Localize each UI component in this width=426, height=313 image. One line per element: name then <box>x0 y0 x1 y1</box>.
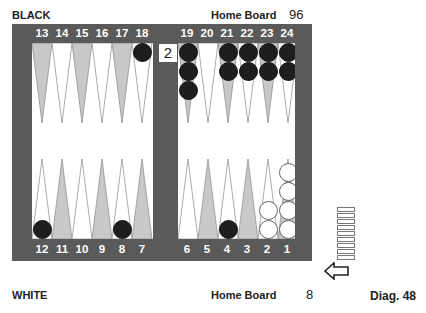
black-checker[interactable] <box>219 220 238 239</box>
black-checker[interactable] <box>239 62 258 81</box>
on-roll-arrow-icon <box>324 262 350 280</box>
point-number-1: 1 <box>277 243 297 255</box>
point-number-4: 4 <box>217 243 237 255</box>
bottom-player-label: WHITE <box>12 289 47 301</box>
black-checker[interactable] <box>33 220 52 239</box>
point-16[interactable] <box>92 43 112 123</box>
backgammon-board: 2 13141516171819202122232412111098765432… <box>12 24 312 261</box>
point-15[interactable] <box>72 43 92 123</box>
point-number-17: 17 <box>112 27 132 39</box>
black-checker[interactable] <box>259 62 278 81</box>
black-checker[interactable] <box>239 43 258 62</box>
point-number-3: 3 <box>237 243 257 255</box>
borne-off-white-checker <box>337 213 355 218</box>
white-checker[interactable] <box>259 220 278 239</box>
point-5[interactable] <box>198 159 218 239</box>
black-checker[interactable] <box>219 62 238 81</box>
borne-off-tray <box>337 207 355 261</box>
point-number-21: 21 <box>217 27 237 39</box>
borne-off-white-checker <box>337 237 355 242</box>
black-checker[interactable] <box>179 62 198 81</box>
doubling-cube[interactable]: 2 <box>159 44 177 62</box>
point-number-14: 14 <box>52 27 72 39</box>
point-number-9: 9 <box>92 243 112 255</box>
black-checker[interactable] <box>179 43 198 62</box>
point-number-12: 12 <box>32 243 52 255</box>
white-checker[interactable] <box>279 163 296 182</box>
white-checker[interactable] <box>279 220 296 239</box>
black-checker[interactable] <box>219 43 238 62</box>
point-17[interactable] <box>112 43 132 123</box>
point-6[interactable] <box>178 159 198 239</box>
point-number-13: 13 <box>32 27 52 39</box>
diagram-label: Diag. 48 <box>370 289 416 303</box>
point-number-19: 19 <box>177 27 197 39</box>
borne-off-white-checker <box>337 231 355 236</box>
point-number-2: 2 <box>257 243 277 255</box>
point-14[interactable] <box>52 43 72 123</box>
point-number-10: 10 <box>72 243 92 255</box>
borne-off-white-checker <box>337 207 355 212</box>
point-number-11: 11 <box>52 243 72 255</box>
black-checker[interactable] <box>279 62 296 81</box>
borne-off-white-checker <box>337 243 355 248</box>
point-number-18: 18 <box>132 27 152 39</box>
white-checker[interactable] <box>259 201 278 220</box>
point-number-8: 8 <box>112 243 132 255</box>
point-20[interactable] <box>198 43 218 123</box>
point-number-20: 20 <box>197 27 217 39</box>
black-checker[interactable] <box>133 43 152 62</box>
point-9[interactable] <box>92 159 112 239</box>
point-number-16: 16 <box>92 27 112 39</box>
top-player-label: BLACK <box>12 9 51 21</box>
point-3[interactable] <box>238 159 258 239</box>
point-number-5: 5 <box>197 243 217 255</box>
point-10[interactable] <box>72 159 92 239</box>
point-11[interactable] <box>52 159 72 239</box>
black-checker[interactable] <box>179 81 198 100</box>
black-checker[interactable] <box>113 220 132 239</box>
black-checker[interactable] <box>279 43 296 62</box>
point-number-7: 7 <box>132 243 152 255</box>
bottom-pip-count: 8 <box>306 287 313 302</box>
home-board <box>178 43 295 239</box>
borne-off-white-checker <box>337 219 355 224</box>
point-number-24: 24 <box>277 27 297 39</box>
borne-off-white-checker <box>337 225 355 230</box>
top-home-board-label: Home Board <box>211 9 276 21</box>
bottom-home-board-label: Home Board <box>211 289 276 301</box>
point-number-15: 15 <box>72 27 92 39</box>
point-13[interactable] <box>32 43 52 123</box>
black-checker[interactable] <box>259 43 278 62</box>
point-number-22: 22 <box>237 27 257 39</box>
white-checker[interactable] <box>279 201 296 220</box>
point-7[interactable] <box>132 159 152 239</box>
outer-board <box>32 43 153 239</box>
borne-off-white-checker <box>337 249 355 254</box>
top-pip-count: 96 <box>289 7 303 22</box>
borne-off-white-checker <box>337 255 355 260</box>
point-number-23: 23 <box>257 27 277 39</box>
white-checker[interactable] <box>279 182 296 201</box>
point-number-6: 6 <box>177 243 197 255</box>
